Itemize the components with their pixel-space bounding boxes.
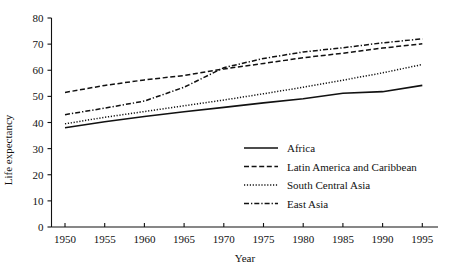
x-axis-title: Year bbox=[235, 252, 256, 264]
y-tick-label: 20 bbox=[33, 169, 45, 181]
x-tick-label: 1965 bbox=[173, 233, 196, 245]
x-tick-label: 1985 bbox=[332, 233, 355, 245]
x-tick-label: 1950 bbox=[54, 233, 77, 245]
y-tick-label: 80 bbox=[33, 12, 45, 24]
x-tick-label: 1980 bbox=[292, 233, 315, 245]
legend-label: Latin America and Caribbean bbox=[287, 161, 417, 173]
x-tick-label: 1995 bbox=[411, 233, 434, 245]
x-tick-label: 1955 bbox=[94, 233, 117, 245]
x-tick-label: 1975 bbox=[253, 233, 276, 245]
y-tick-label: 30 bbox=[33, 143, 45, 155]
y-tick-label: 40 bbox=[33, 117, 45, 129]
life-expectancy-chart: 01020304050607080 1950195519601965197019… bbox=[0, 0, 458, 275]
y-tick-label: 50 bbox=[33, 90, 45, 102]
x-tick-label: 1990 bbox=[372, 233, 395, 245]
legend-label: South Central Asia bbox=[287, 179, 370, 191]
legend-label: Africa bbox=[287, 142, 315, 154]
legend-label: East Asia bbox=[287, 198, 328, 210]
y-axis-title: Life expectancy bbox=[2, 114, 14, 185]
y-tick-label: 60 bbox=[33, 64, 45, 76]
x-tick-label: 1960 bbox=[133, 233, 156, 245]
chart-canvas: 01020304050607080 1950195519601965197019… bbox=[0, 0, 458, 275]
y-tick-label: 0 bbox=[38, 221, 44, 233]
y-tick-label: 70 bbox=[33, 38, 45, 50]
x-tick-label: 1970 bbox=[213, 233, 236, 245]
y-tick-label: 10 bbox=[33, 195, 45, 207]
